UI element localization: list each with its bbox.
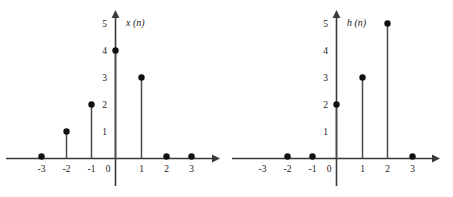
- ytick-label-h-3: 4: [323, 46, 328, 56]
- xtick-label-x-4: 1: [139, 164, 144, 174]
- ytick-label-x-2: 3: [102, 73, 107, 83]
- y-axis-arrow-h: [333, 10, 341, 18]
- plot-h-of-n: -3 -2 -1 0 1 2 3 1 2 3 4 5 h (n): [226, 0, 453, 197]
- plot-x-ytick-labels: 1 2 3 4 5: [102, 19, 107, 137]
- xtick-label-x-0: -3: [38, 164, 46, 174]
- xtick-label-x-2: -1: [88, 164, 96, 174]
- marker-h-n-minus2: [284, 153, 290, 159]
- ytick-label-h-4: 5: [323, 19, 328, 29]
- ytick-label-x-3: 4: [102, 46, 107, 56]
- xtick-label-x-6: 3: [189, 164, 194, 174]
- xtick-label-h-0: -3: [259, 164, 267, 174]
- plot-x-stems: [42, 51, 192, 159]
- plot-x-axes: [6, 10, 220, 186]
- x-axis-arrow-h: [432, 155, 440, 163]
- xtick-label-x-1: -2: [63, 164, 71, 174]
- plot-h-axes: [232, 10, 440, 186]
- marker-x-n-minus1: [88, 101, 94, 107]
- marker-x-n-2: [163, 153, 169, 159]
- marker-h-n-1: [359, 74, 365, 80]
- signal-label-x-of-n: x (n): [125, 17, 145, 29]
- plot-x-markers: [38, 47, 194, 159]
- xtick-label-h-4: 1: [360, 164, 365, 174]
- ytick-label-x-0: 1: [102, 127, 107, 137]
- plot-x-of-n-canvas: -3 -2 -1 0 1 2 3 1 2 3 4 5 x (n): [0, 0, 226, 197]
- marker-x-n-1: [138, 74, 144, 80]
- ytick-label-h-1: 2: [323, 100, 328, 110]
- xtick-label-x-5: 2: [164, 164, 169, 174]
- marker-x-n-minus3: [38, 153, 44, 159]
- xtick-label-h-6: 3: [410, 164, 415, 174]
- ytick-label-h-2: 3: [323, 73, 328, 83]
- xtick-label-h-3: 0: [327, 164, 332, 174]
- plot-h-ytick-labels: 1 2 3 4 5: [323, 19, 328, 137]
- marker-x-n-3: [188, 153, 194, 159]
- marker-x-n-minus2: [63, 128, 69, 134]
- xtick-label-x-3: 0: [106, 164, 111, 174]
- plot-h-markers: [284, 20, 415, 159]
- x-axis-arrow-x: [212, 155, 220, 163]
- marker-h-n-minus1: [309, 153, 315, 159]
- plot-h-of-n-canvas: -3 -2 -1 0 1 2 3 1 2 3 4 5 h (n): [226, 0, 453, 197]
- xtick-label-h-5: 2: [385, 164, 390, 174]
- marker-x-n-0: [112, 47, 118, 53]
- xtick-label-h-2: -1: [309, 164, 317, 174]
- ytick-label-h-0: 1: [323, 127, 328, 137]
- signal-label-h-of-n: h (n): [347, 17, 367, 29]
- plot-h-stems: [263, 24, 413, 159]
- xtick-label-h-1: -2: [284, 164, 292, 174]
- ytick-label-x-4: 5: [102, 19, 107, 29]
- ytick-label-x-1: 2: [102, 100, 107, 110]
- y-axis-arrow-x: [112, 10, 120, 18]
- marker-h-n-2: [384, 20, 390, 26]
- plot-x-of-n: -3 -2 -1 0 1 2 3 1 2 3 4 5 x (n): [0, 0, 226, 197]
- marker-h-n-0: [333, 101, 339, 107]
- marker-h-n-3: [409, 153, 415, 159]
- figure-two-discrete-signal-plots: -3 -2 -1 0 1 2 3 1 2 3 4 5 x (n): [0, 0, 453, 197]
